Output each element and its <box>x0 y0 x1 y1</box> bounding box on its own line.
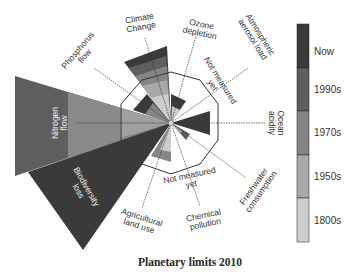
legend: Now 1990s 1970s 1950s 1800s <box>297 24 341 242</box>
planetary-limits-chart: Climate Change Ozone depletion Atmospher… <box>0 0 364 273</box>
legend-label-now: Now <box>314 46 335 57</box>
legend-swatch-1970s <box>297 111 309 155</box>
legend-label-1800s: 1800s <box>314 215 341 226</box>
svg-text:flow: flow <box>59 115 69 131</box>
legend-swatch-1800s <box>297 198 309 242</box>
legend-label-1950s: 1950s <box>314 171 341 182</box>
chart-title: Planetary limits 2010 <box>138 256 242 269</box>
label-phosphorus: Phosphorus <box>59 29 96 70</box>
svg-text:yet: yet <box>185 178 199 190</box>
legend-label-1970s: 1970s <box>314 127 341 138</box>
svg-text:acidity: acidity <box>267 111 277 136</box>
legend-swatch-1950s <box>297 155 309 198</box>
ozone-wedge <box>171 94 186 123</box>
legend-swatch-now <box>297 24 309 68</box>
legend-swatch-1990s <box>297 68 309 111</box>
label-not-measured-aerosol: Not measured <box>202 55 239 106</box>
legend-label-1990s: 1990s <box>314 84 341 95</box>
